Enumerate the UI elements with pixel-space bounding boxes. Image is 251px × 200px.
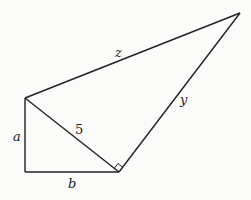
geometry-diagram: z y 5 a b: [0, 0, 251, 200]
segment-5: [25, 98, 119, 172]
label-a: a: [13, 129, 21, 144]
label-b: b: [68, 176, 76, 191]
label-z: z: [114, 45, 122, 60]
label-y: y: [179, 92, 188, 107]
label-5: 5: [75, 122, 83, 137]
right-angle-marker: [114, 164, 122, 169]
diagram-canvas: z y 5 a b: [0, 0, 251, 200]
